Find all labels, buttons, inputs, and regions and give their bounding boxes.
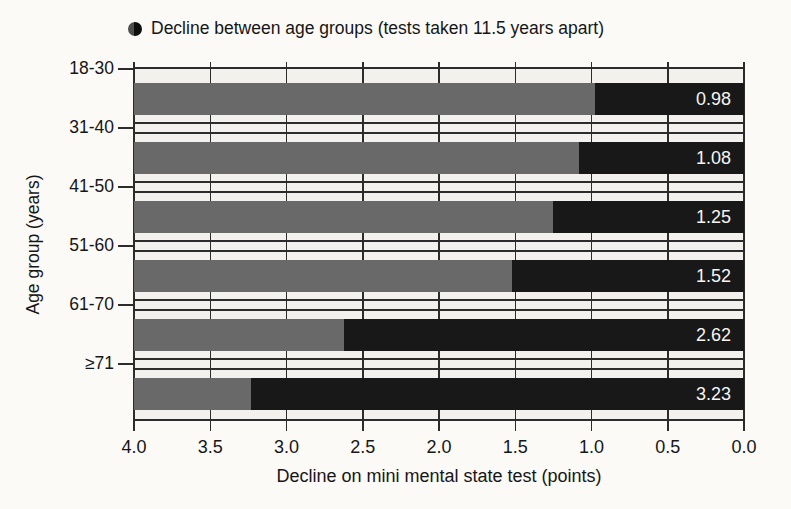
x-tick-label: 1.0 — [568, 437, 616, 458]
x-gridline — [362, 62, 364, 431]
bar-decline-segment: 1.08 — [579, 142, 744, 174]
bar-remainder-segment — [134, 201, 553, 233]
legend: Decline between age groups (tests taken … — [128, 18, 604, 39]
x-gridline — [515, 62, 517, 431]
y-tick-label: 18-30 — [22, 57, 114, 79]
bar-remainder-segment — [134, 260, 512, 292]
category-gridline — [134, 181, 744, 183]
category-gridline — [134, 122, 744, 124]
x-gridline — [743, 62, 745, 431]
x-gridline — [133, 62, 135, 431]
bar-remainder-segment — [134, 83, 595, 115]
x-tick-label: 2.5 — [339, 437, 387, 458]
y-axis-tick — [118, 245, 134, 247]
y-axis-tick — [118, 363, 134, 365]
bar-decline-segment: 1.52 — [512, 260, 744, 292]
y-axis-tick — [118, 127, 134, 129]
category-gridline — [134, 358, 744, 360]
x-gridline — [591, 62, 593, 431]
category-gridline — [134, 368, 744, 370]
bar-row: 1.25 — [134, 201, 744, 233]
bar-value-label: 3.23 — [696, 384, 731, 405]
bar-row: 0.98 — [134, 83, 744, 115]
y-axis-tick — [118, 304, 134, 306]
bar-remainder-segment — [134, 319, 344, 351]
category-gridline — [134, 250, 744, 252]
half-filled-circle-icon — [128, 22, 142, 36]
bar-value-label: 1.52 — [696, 266, 731, 287]
y-tick-label: 51-60 — [22, 234, 114, 256]
legend-label: Decline between age groups (tests taken … — [151, 18, 604, 39]
y-tick-label: 31-40 — [22, 116, 114, 138]
bar-value-label: 2.62 — [696, 325, 731, 346]
y-tick-label: 61-70 — [22, 293, 114, 315]
x-tick-label: 1.5 — [491, 437, 539, 458]
x-tick-label: 3.5 — [186, 437, 234, 458]
x-gridline — [438, 62, 440, 431]
x-axis-title: Decline on mini mental state test (point… — [134, 466, 744, 487]
bar-decline-segment: 2.62 — [344, 319, 744, 351]
plot-area: 18-300.9831-401.0841-501.2551-601.5261-7… — [134, 67, 744, 421]
bar-value-label: 1.25 — [696, 207, 731, 228]
bar-remainder-segment — [134, 378, 251, 410]
bar-row: 1.08 — [134, 142, 744, 174]
x-gridline — [667, 62, 669, 431]
x-tick-label: 2.0 — [415, 437, 463, 458]
y-axis-tick — [118, 186, 134, 188]
bar-decline-segment: 0.98 — [595, 83, 744, 115]
bar-row: 3.23 — [134, 378, 744, 410]
x-tick-label: 4.0 — [110, 437, 158, 458]
bar-value-label: 1.08 — [696, 148, 731, 169]
bar-value-label: 0.98 — [696, 89, 731, 110]
category-gridline — [134, 132, 744, 134]
x-gridline — [286, 62, 288, 431]
x-tick-label: 3.0 — [263, 437, 311, 458]
y-tick-label: 41-50 — [22, 175, 114, 197]
bar-row: 2.62 — [134, 319, 744, 351]
y-tick-label: ≥71 — [22, 352, 114, 374]
bar-decline-segment: 3.23 — [251, 378, 744, 410]
x-gridline — [210, 62, 212, 431]
bar-remainder-segment — [134, 142, 579, 174]
bar-decline-segment: 1.25 — [553, 201, 744, 233]
category-gridline — [134, 240, 744, 242]
x-tick-label: 0.5 — [644, 437, 692, 458]
category-gridline — [134, 299, 744, 301]
y-axis-tick — [118, 68, 134, 70]
bar-row: 1.52 — [134, 260, 744, 292]
x-tick-label: 0.0 — [720, 437, 768, 458]
chart-figure: Decline between age groups (tests taken … — [0, 0, 791, 509]
category-gridline — [134, 191, 744, 193]
category-gridline — [134, 309, 744, 311]
